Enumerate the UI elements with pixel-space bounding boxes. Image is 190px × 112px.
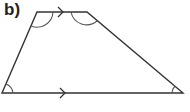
- trapezium-diagram: [0, 0, 190, 112]
- angle-arc-top-right-icon: [71, 12, 97, 25]
- angle-arc-bottom-left-icon: [6, 84, 13, 93]
- angle-arc-bottom-right-icon: [172, 86, 175, 93]
